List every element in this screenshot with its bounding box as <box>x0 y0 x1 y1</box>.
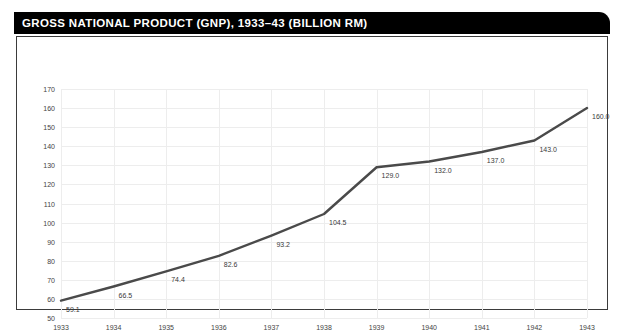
x-axis-tick-label: 1942 <box>514 324 554 331</box>
y-axis-tick-label: 140 <box>29 143 55 150</box>
data-point-label: 143.0 <box>539 146 557 153</box>
x-axis-tick-label: 1936 <box>199 324 239 331</box>
data-point-label: 82.6 <box>224 261 238 268</box>
data-point-label: 160.0 <box>592 113 610 120</box>
x-axis-tick-label: 1941 <box>462 324 502 331</box>
chart-title-banner: GROSS NATIONAL PRODUCT (GNP), 1933–43 (B… <box>14 12 610 34</box>
x-axis-tick-label: 1943 <box>567 324 607 331</box>
x-axis-tick-label: 1937 <box>251 324 291 331</box>
gridline-horizontal <box>61 318 587 319</box>
y-axis-tick-label: 90 <box>29 238 55 245</box>
y-axis-tick-label: 120 <box>29 181 55 188</box>
y-axis-tick-label: 110 <box>29 200 55 207</box>
data-point-label: 129.0 <box>382 172 400 179</box>
y-axis-tick-label: 150 <box>29 124 55 131</box>
y-axis-tick-label: 100 <box>29 219 55 226</box>
x-axis-tick-label: 1934 <box>94 324 134 331</box>
y-axis-tick-label: 50 <box>29 315 55 322</box>
x-axis-tick-label: 1935 <box>146 324 186 331</box>
page-title: GROSS NATIONAL PRODUCT (GNP), 1933–43 (B… <box>22 12 368 34</box>
y-axis-tick-label: 160 <box>29 105 55 112</box>
y-axis-tick-label: 80 <box>29 257 55 264</box>
x-axis-tick-label: 1933 <box>41 324 81 331</box>
y-axis-tick-label: 70 <box>29 276 55 283</box>
data-point-label: 93.2 <box>276 241 290 248</box>
gridline-vertical <box>587 89 588 318</box>
gnp-line-series <box>61 89 587 318</box>
data-point-label: 137.0 <box>487 157 505 164</box>
y-axis-tick-label: 130 <box>29 162 55 169</box>
data-point-label: 59.1 <box>66 306 80 313</box>
x-axis-tick-label: 1940 <box>409 324 449 331</box>
data-point-label: 104.5 <box>329 219 347 226</box>
data-point-label: 66.5 <box>119 292 133 299</box>
x-axis-tick-label: 1938 <box>304 324 344 331</box>
data-point-label: 132.0 <box>434 167 452 174</box>
y-axis-tick-label: 170 <box>29 86 55 93</box>
x-axis-tick-label: 1939 <box>357 324 397 331</box>
y-axis-tick-label: 60 <box>29 295 55 302</box>
chart-frame: 5060708090100110120130140150160170 19331… <box>16 36 608 310</box>
data-point-label: 74.4 <box>171 276 185 283</box>
plot-area: 5060708090100110120130140150160170 19331… <box>61 89 587 318</box>
